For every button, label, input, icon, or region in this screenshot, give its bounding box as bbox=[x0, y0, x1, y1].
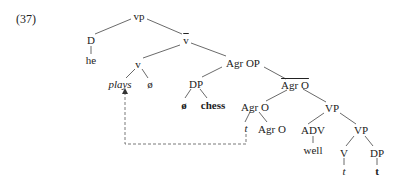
node-AgrOP: Agr OP bbox=[226, 57, 260, 69]
node-V: V bbox=[340, 147, 348, 159]
node-DP-object: DP bbox=[189, 78, 203, 90]
node-plays: plays bbox=[108, 78, 131, 90]
node-null-determiner: ø bbox=[181, 99, 187, 111]
node-well: well bbox=[304, 144, 323, 156]
node-AgrO-bar: Agr O bbox=[281, 79, 309, 91]
node-AgrO-inner: Agr O bbox=[258, 123, 286, 135]
node-v: v bbox=[135, 58, 141, 70]
node-trace-v: t bbox=[244, 122, 247, 134]
node-ADV: ADV bbox=[301, 124, 325, 136]
node-VP-upper: VP bbox=[325, 102, 339, 114]
node-null-v: ø bbox=[147, 78, 153, 90]
node-vp: vp bbox=[134, 10, 145, 22]
node-trace-V: t bbox=[342, 165, 345, 177]
node-DP-trace: DP bbox=[370, 147, 384, 159]
node-AgrO-head: Agr O bbox=[241, 101, 269, 113]
node-chess: chess bbox=[201, 99, 225, 111]
node-VP-lower: VP bbox=[354, 124, 368, 136]
node-D: D bbox=[87, 34, 95, 46]
node-v-bar: v bbox=[183, 34, 189, 46]
node-trace-DP: t bbox=[375, 165, 379, 177]
tree-branches bbox=[0, 0, 416, 182]
node-he: he bbox=[86, 54, 96, 66]
